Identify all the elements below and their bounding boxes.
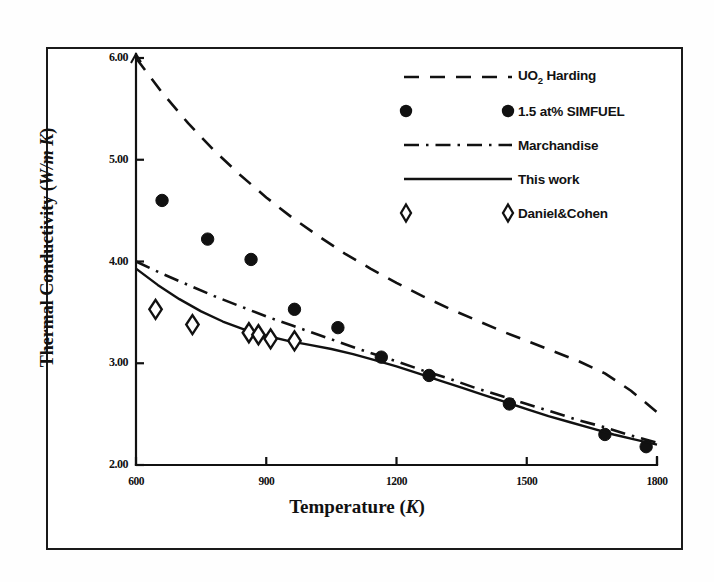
legend-item-2[interactable]: Marchandise [398, 128, 660, 162]
chart-legend: UO2 Harding1.5 at% SIMFUELMarchandiseThi… [398, 60, 660, 230]
x-tick-label: 600 [113, 475, 159, 487]
legend-marker-none [398, 164, 518, 194]
legend-marker-none [398, 130, 518, 160]
y-axis-title: Thermal Conductivity (W/m K) [37, 68, 58, 428]
y-tick-label: 3.00 [82, 355, 128, 370]
x-axis-title: Temperature (K) [0, 496, 714, 518]
y-tick-label: 6.00 [82, 50, 128, 65]
legend-label-3: This work [518, 172, 579, 187]
x-tick-label: 1500 [504, 475, 550, 487]
legend-label-1: 1.5 at% SIMFUEL [518, 104, 625, 119]
legend-item-1[interactable]: 1.5 at% SIMFUEL [398, 94, 660, 128]
legend-item-3[interactable]: This work [398, 162, 660, 196]
y-tick-label: 4.00 [82, 254, 128, 269]
x-tick-label: 1200 [374, 475, 420, 487]
legend-item-4[interactable]: Daniel&Cohen [398, 196, 660, 230]
legend-label-2: Marchandise [518, 138, 598, 153]
legend-marker-filled-circle [398, 96, 518, 126]
legend-label-4: Daniel&Cohen [518, 206, 608, 221]
legend-marker-open-diamond [398, 198, 518, 228]
x-tick-label: 1800 [634, 475, 680, 487]
legend-marker-none [398, 62, 518, 92]
legend-item-0[interactable]: UO2 Harding [398, 60, 660, 94]
x-tick-label: 900 [243, 475, 289, 487]
y-tick-label: 2.00 [82, 457, 128, 472]
chart-figure: 2.003.004.005.006.00 600900120015001800 … [0, 0, 714, 582]
y-tick-label: 5.00 [82, 152, 128, 167]
legend-label-0: UO2 Harding [518, 68, 596, 86]
